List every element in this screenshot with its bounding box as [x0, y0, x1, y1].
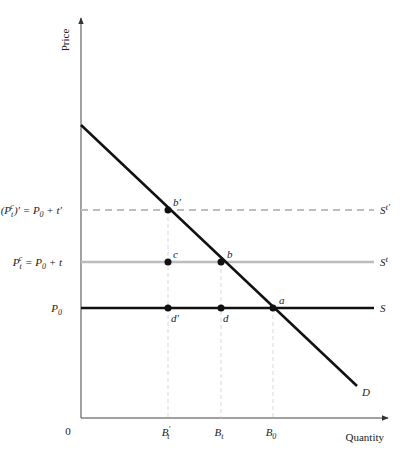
point-d-prime-label: d′	[171, 312, 180, 324]
point-d-label: d	[223, 312, 229, 324]
tax-incidence-diagram: Price Quantity 0 St′ St S D (Ptc)′ = P0 …	[0, 0, 404, 456]
supply-tprime-label: St′	[380, 202, 391, 216]
price-t-label: Ptc = P0 + t	[12, 254, 63, 271]
quantity-b-0-label: B0	[266, 426, 277, 441]
demand-label: D	[361, 386, 370, 398]
supply-t-label: St	[380, 254, 389, 268]
x-axis-label: Quantity	[346, 431, 385, 443]
price-0-label: P0	[50, 302, 62, 317]
supply-label: S	[380, 302, 386, 314]
quantity-b-t-label: Bt	[215, 426, 225, 441]
point-b-prime-label: b′	[173, 196, 182, 208]
point-b	[218, 259, 225, 266]
point-b-label: b	[227, 248, 233, 260]
point-c-label: c	[173, 248, 178, 260]
point-b-prime	[165, 207, 172, 214]
point-d	[218, 305, 225, 312]
point-a	[270, 305, 277, 312]
quantity-b-tprime-label: B′t	[162, 425, 171, 441]
y-axis-label: Price	[59, 29, 71, 52]
price-tprime-label: (Ptc)′ = P0 + t′	[1, 202, 63, 219]
demand-line	[81, 125, 357, 386]
point-c	[165, 259, 172, 266]
point-d-prime	[165, 305, 172, 312]
origin-label: 0	[65, 425, 71, 437]
point-a-label: a	[279, 294, 285, 306]
